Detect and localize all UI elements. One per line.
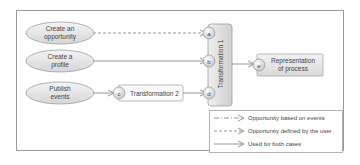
legend-label: Used for both cases	[248, 141, 301, 147]
source-label-line1: Create a	[48, 53, 73, 60]
source-publish-events[interactable]: Publish events	[26, 82, 94, 104]
diagram-canvas: Create an opportunity Create a profile P…	[0, 0, 360, 165]
transformation1-node[interactable]: Transformation 1 a b d	[203, 24, 232, 106]
representation-label-line1: Representation	[271, 57, 315, 65]
transformation2-label: Transformation 2	[130, 90, 179, 97]
port-c-label: c	[118, 91, 121, 97]
source-create-profile[interactable]: Create a profile	[26, 50, 94, 72]
legend: Opportunity based on events Opportunity …	[210, 111, 343, 153]
representation-node[interactable]: e Representation of process	[253, 54, 323, 76]
source-create-opportunity[interactable]: Create an opportunity	[26, 22, 94, 44]
source-label-line2: profile	[51, 61, 69, 69]
source-label-line2: events	[50, 93, 70, 100]
port-d-label: d	[207, 91, 210, 97]
source-label-line1: Publish	[49, 85, 71, 92]
representation-label-line2: of process	[278, 65, 309, 73]
source-label-line2: opportunity	[44, 33, 77, 41]
transformation1-label: Transformation 1	[217, 39, 224, 88]
transformation2-node[interactable]: c Transformation 2	[113, 85, 183, 101]
source-label-line1: Create an	[46, 25, 75, 32]
legend-label: Opportunity based on events	[248, 115, 325, 121]
legend-label: Opportunity defined by the user	[248, 128, 332, 134]
